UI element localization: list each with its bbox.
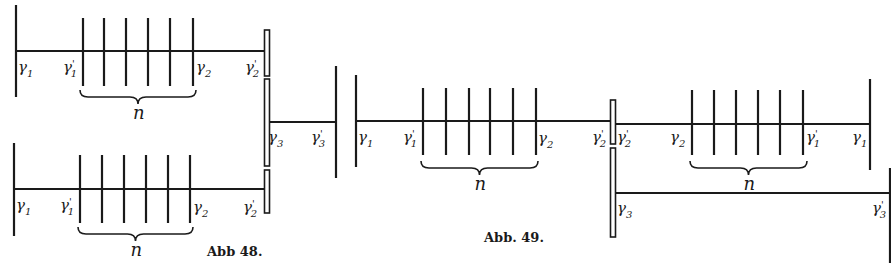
gamma-label: γ'2 [245, 58, 259, 79]
system-third-stage: γ3γ'3 [268, 66, 336, 178]
gamma-label: γ2 [538, 129, 553, 150]
caption-abb-49: Abb. 49. [483, 230, 544, 245]
gear-train-diagram: nγ1γ'1γ2γ'2nγ1γ'1γ2γ'2γ3γ'3 nγ1γ'1γ2γ'2n… [0, 0, 891, 263]
separator-bar [611, 100, 616, 144]
separator-bar [265, 30, 270, 76]
gamma-label: γ2 [670, 128, 685, 149]
brace-label-n: n [475, 173, 487, 194]
gamma-label: γ2 [193, 198, 208, 219]
gamma-label: γ2 [196, 58, 211, 79]
system-lower-train: nγ1γ'1γ2γ'2 [14, 143, 265, 260]
gamma-label: γ'2 [243, 198, 257, 219]
separator-bar [611, 148, 616, 237]
gamma-label: γ'3 [311, 128, 325, 149]
gamma-label: γ1 [852, 128, 867, 149]
brace-label-n: n [744, 173, 756, 194]
system-upper-train: nγ1γ'1γ2γ'2 [16, 5, 267, 123]
gamma-label: γ1 [18, 58, 33, 79]
gamma-label: γ'1 [63, 58, 77, 79]
gamma-label: γ1 [358, 128, 373, 149]
caption-abb-48: Abb 48. [206, 244, 262, 259]
separator-bar [265, 79, 270, 166]
gamma-label: γ1 [16, 196, 31, 217]
figure-abb-48: nγ1γ'1γ2γ'2nγ1γ'1γ2γ'2γ3γ'3 [14, 5, 336, 260]
system-left-train: nγ1γ'1γ2γ'2 [356, 75, 613, 194]
figure-abb-49: nγ1γ'1γ2γ'2nγ'2γ2γ'1γ1γ3γ'3 [356, 75, 891, 263]
gamma-label: γ3 [268, 128, 283, 149]
gamma-label: γ3 [617, 199, 632, 220]
gamma-label: γ'2 [592, 128, 606, 149]
gamma-label: γ'1 [60, 196, 74, 217]
gamma-label: γ'1 [806, 128, 820, 149]
separator-bar [265, 170, 270, 213]
brace-label-n: n [131, 239, 143, 260]
gamma-label: γ'3 [872, 199, 886, 220]
gamma-label: γ'1 [403, 128, 417, 149]
system-right-train: nγ'2γ2γ'1γ1 [613, 79, 870, 194]
gamma-label: γ'2 [617, 128, 631, 149]
brace-label-n: n [133, 102, 145, 123]
